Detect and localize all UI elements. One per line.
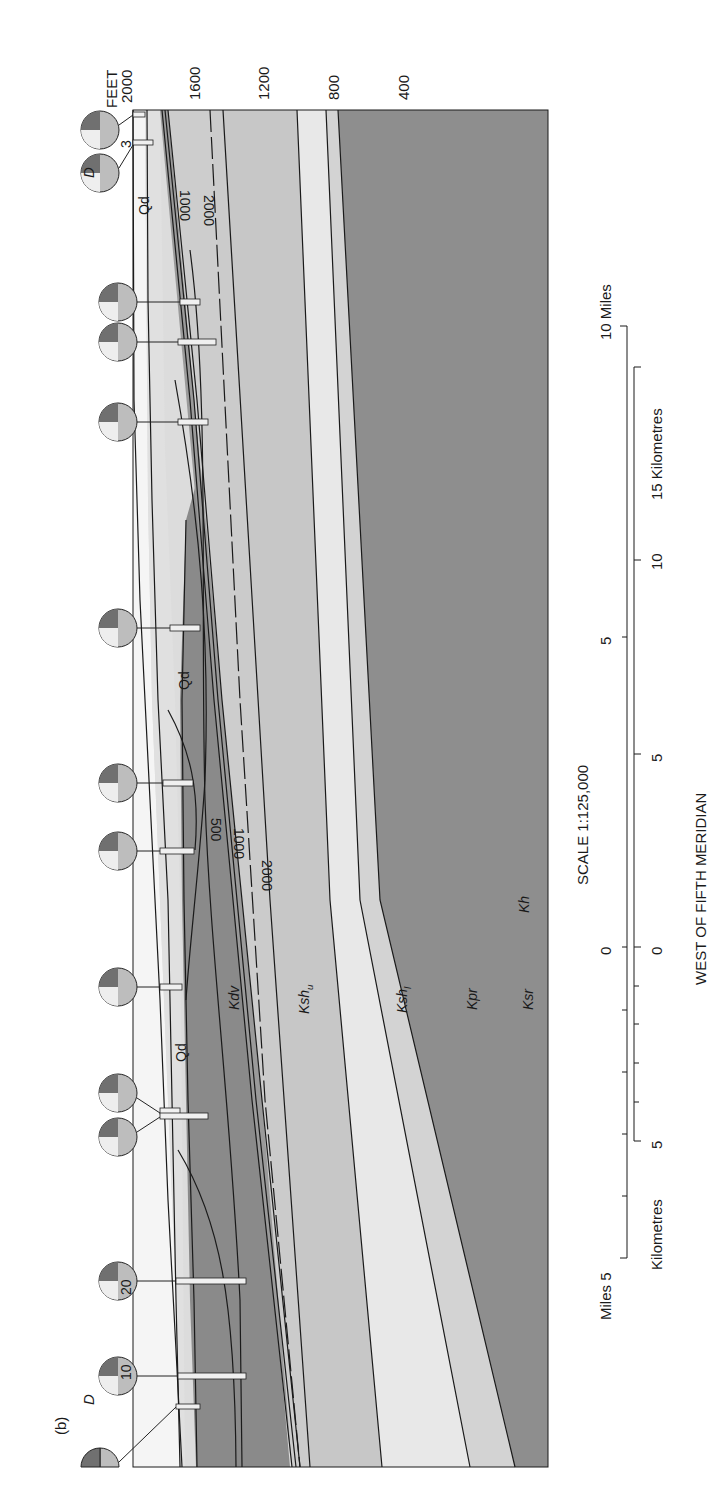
strata-bands [133,110,548,1467]
well-label-3: 3 [118,140,134,148]
unit-label-kdv: Kdv [226,986,242,1010]
scale-km-end-label: 15 Kilometres [648,408,665,500]
unit-label-ksh-lower: Kshl [394,987,413,1013]
scale-miles-tick-0: 0 [597,947,614,955]
scale-km-tick-0: 0 [648,947,665,955]
well-label-20: 20 [118,1279,134,1295]
contour-label-1000-b: 1000 [231,828,247,859]
scale-miles-tick-5-right: 5 [597,637,614,645]
meridian-label: WEST OF FIFTH MERIDIAN [692,793,709,985]
pie-chart-icon [100,1448,119,1467]
unit-label-ksh-upper: Kshu [296,984,315,1014]
well-label-10: 10 [118,1364,134,1380]
scale-miles-start-label: Miles 5 [597,1272,614,1320]
contour-label-1000-a: 1000 [177,190,193,221]
contour-label-500: 500 [208,818,224,841]
contour-label-2000-b: 2000 [259,860,275,891]
scale-km-start-label: Kilometres [648,1199,665,1270]
scale-title: SCALE 1:125,000 [574,765,591,885]
well-label-d-bottom: D [80,1394,97,1405]
contour-label-2000-a: 2000 [201,195,217,226]
unit-label-kpr: Kpr [464,988,480,1010]
elevation-tick-1200: 1200 [255,67,272,100]
panel-label: (b) [52,1417,69,1435]
scale-km-tick-5-right: 5 [648,754,665,762]
unit-label-qd-3: Qd [173,1043,189,1062]
elevation-tick-1600: 1600 [186,67,203,100]
elevation-tick-2000: 2000 [118,70,135,103]
elevation-tick-800: 800 [325,75,342,100]
well-label-d-top: D [80,167,97,178]
unit-label-kh: Kh [516,896,532,913]
scale-km-tick-5-left: 5 [648,1141,665,1149]
unit-label-qd-2: Qd [176,671,192,690]
scale-km-tick-10: 10 [648,553,665,570]
unit-label-qd-1: Qd [136,196,152,215]
unit-label-ksr: Ksr [520,989,536,1010]
scale-miles-end-label: 10 Miles [597,284,614,340]
elevation-tick-400: 400 [395,75,412,100]
